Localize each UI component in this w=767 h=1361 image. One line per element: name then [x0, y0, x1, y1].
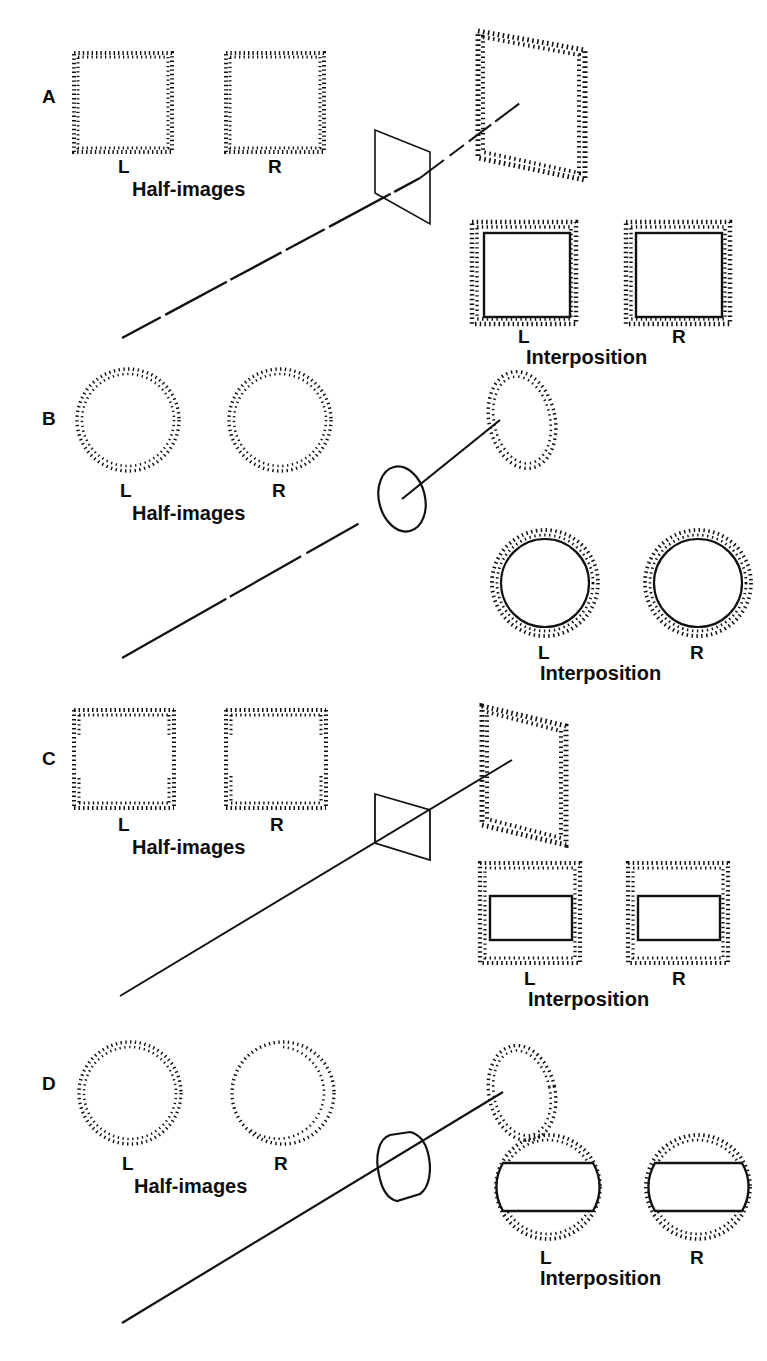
interposition-left-label-d: L [540, 1247, 552, 1269]
row-a-graphics [0, 0, 767, 360]
interposition-caption-c: Interposition [528, 988, 649, 1011]
interposition-right-label-d: R [690, 1247, 704, 1269]
half-images-caption-c: Half-images [132, 836, 245, 859]
row-d-graphics [0, 1035, 767, 1361]
figure-row-d: D [0, 1035, 767, 1361]
half-images-caption-b: Half-images [132, 502, 245, 525]
row-b-graphics [0, 360, 767, 700]
half-image-left-a [74, 53, 172, 152]
sight-line-c [120, 760, 512, 996]
half-image-left-b [77, 369, 179, 471]
figure-row-c: C [0, 690, 767, 1040]
interposition-left-label-c: L [524, 968, 536, 990]
half-image-right-label-d: R [274, 1153, 288, 1175]
half-image-right-d [232, 1042, 334, 1144]
interposition-caption-b: Interposition [540, 662, 661, 685]
interposition-left-label-b: L [538, 642, 550, 664]
far-ellipse-b [480, 365, 565, 475]
half-image-right-b [229, 369, 331, 471]
half-image-left-label-d: L [122, 1153, 134, 1175]
interposition-caption-d: Interposition [540, 1267, 661, 1290]
half-images-caption-a: Half-images [132, 178, 245, 201]
half-image-right-label-c: R [270, 814, 284, 836]
far-ellipse-d [480, 1039, 565, 1147]
half-image-left-label-a: L [118, 156, 130, 178]
stereogram-figure: A [0, 0, 767, 1361]
half-image-left-label-c: L [118, 814, 130, 836]
half-image-right-label-b: R [272, 480, 286, 502]
interposition-right-label-b: R [690, 642, 704, 664]
far-plane-c [482, 706, 566, 845]
interposition-left-b [492, 530, 598, 636]
interposition-left-label-a: L [518, 326, 530, 348]
interposition-right-label-a: R [672, 326, 686, 348]
far-plane-a [478, 31, 585, 180]
half-image-right-label-a: R [268, 156, 282, 178]
half-images-caption-d: Half-images [134, 1175, 247, 1198]
half-image-right-a [226, 53, 324, 152]
interposition-right-c [628, 863, 728, 963]
interposition-left-c [480, 863, 580, 963]
sight-line-d [122, 1092, 503, 1323]
figure-row-b: B [0, 360, 767, 700]
interposition-right-label-c: R [672, 968, 686, 990]
interposition-right-b [645, 530, 751, 636]
interposition-left-d [496, 1135, 600, 1239]
half-image-left-c [74, 710, 174, 808]
interposition-left-a [472, 222, 576, 324]
half-image-left-d [79, 1042, 181, 1144]
half-image-left-label-b: L [120, 480, 132, 502]
interposition-right-d [646, 1135, 750, 1239]
interposition-right-a [626, 222, 730, 324]
half-image-right-c [226, 710, 326, 808]
row-c-graphics [0, 690, 767, 1040]
figure-row-a: A [0, 0, 767, 360]
